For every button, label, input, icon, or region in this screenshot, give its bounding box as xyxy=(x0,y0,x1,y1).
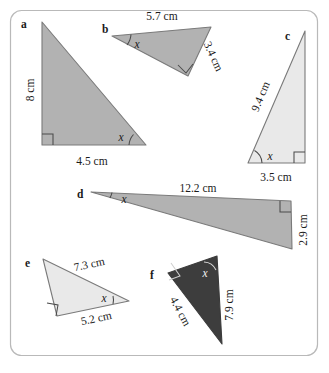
triangle-e-angle-label: x xyxy=(100,292,107,304)
triangle-b-shape xyxy=(112,27,211,76)
triangle-f: f 4.4 cm 7.9 cm x xyxy=(150,256,235,344)
triangle-c-angle-label: x xyxy=(266,150,273,162)
triangle-b-angle-label: x xyxy=(133,38,140,50)
triangle-d-angle-label: x xyxy=(120,193,127,205)
triangle-d-top-side-label: 12.2 cm xyxy=(179,182,216,194)
triangle-e-hypotenuse-label: 7.3 cm xyxy=(73,255,106,273)
triangle-c-base-label: 3.5 cm xyxy=(260,171,291,183)
triangle-c: c 9.4 cm 3.5 cm x xyxy=(248,30,305,183)
triangle-e: e 7.3 cm 5.2 cm x xyxy=(25,255,129,327)
triangle-a-letter: a xyxy=(21,18,27,30)
triangle-f-right-side-label: 7.9 cm xyxy=(223,289,235,320)
triangle-d: d 12.2 cm 2.9 cm x xyxy=(77,182,309,249)
triangle-d-right-side-label: 2.9 cm xyxy=(297,214,309,245)
triangle-e-angle-arc-icon xyxy=(113,296,114,304)
triangle-f-angle-label: x xyxy=(201,267,208,279)
triangles-figure: a 8 cm 4.5 cm x b 5.7 cm 3.4 cm x c 9.4 … xyxy=(0,0,329,373)
triangle-e-letter: e xyxy=(25,257,30,269)
triangle-a-angle-label: x xyxy=(117,131,124,143)
triangle-b-top-side-label: 5.7 cm xyxy=(146,10,177,22)
figure-page: a 8 cm 4.5 cm x b 5.7 cm 3.4 cm x c 9.4 … xyxy=(0,0,329,373)
triangle-d-letter: d xyxy=(77,188,84,200)
triangle-b-letter: b xyxy=(102,23,108,35)
triangle-a-horizontal-side-label: 4.5 cm xyxy=(76,155,107,167)
triangle-b: b 5.7 cm 3.4 cm x xyxy=(102,10,226,76)
triangle-c-hypotenuse-label: 9.4 cm xyxy=(249,80,272,114)
triangle-e-base-label: 5.2 cm xyxy=(80,309,113,327)
triangle-a-vertical-side-label: 8 cm xyxy=(24,79,36,102)
triangle-c-letter: c xyxy=(285,30,290,42)
triangle-b-right-side-label: 3.4 cm xyxy=(202,40,226,73)
triangle-f-letter: f xyxy=(150,269,154,281)
